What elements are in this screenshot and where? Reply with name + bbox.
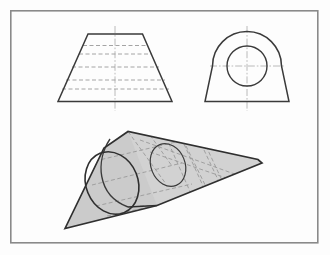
engineering-drawing-canvas bbox=[0, 0, 330, 255]
page-background bbox=[0, 0, 330, 255]
technical-drawing-figure bbox=[0, 0, 330, 255]
